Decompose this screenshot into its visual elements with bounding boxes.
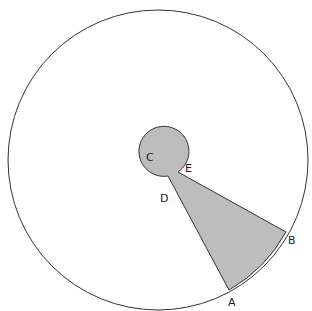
label-b: B — [288, 234, 296, 247]
label-c: C — [146, 151, 154, 164]
label-a: A — [228, 296, 236, 309]
label-e: E — [185, 162, 192, 175]
label-d: D — [160, 192, 168, 205]
shaded-region — [139, 126, 286, 290]
diagram: C E D B A — [0, 0, 312, 311]
